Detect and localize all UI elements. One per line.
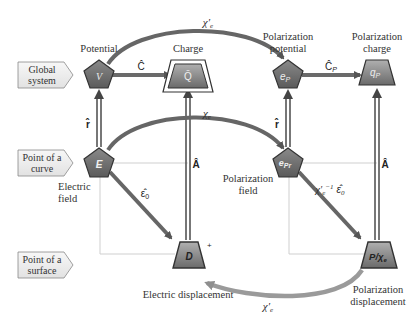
label-r-hat-right: r̂	[274, 118, 279, 130]
node-charge: Charge Q̄	[163, 43, 213, 92]
row-label-point-of-curve: Point of a curve	[18, 150, 73, 176]
svg-text:Point of a: Point of a	[23, 152, 62, 163]
chi-e-middle-arc	[108, 117, 283, 150]
svg-text:Charge: Charge	[173, 43, 203, 54]
svg-text:Q̄: Q̄	[184, 70, 192, 82]
svg-text:Point of a: Point of a	[23, 254, 62, 265]
svg-text:+: +	[207, 241, 212, 250]
svg-text:Polarization: Polarization	[353, 284, 404, 295]
svg-text:surface: surface	[28, 265, 57, 276]
label-r-hat-left: r̂	[85, 118, 90, 130]
label-CP-hat: ĈP	[325, 60, 337, 73]
chi-inv-eps0-arrow	[299, 172, 360, 238]
label-chi-e-prime-top: χ′e	[202, 16, 213, 30]
label-eps0: ε̂0	[141, 188, 149, 200]
svg-text:field: field	[58, 193, 78, 204]
r-hat-arrow-right	[283, 89, 293, 147]
label-chi-inv-eps0: χ′e−1ε̂0	[315, 183, 345, 197]
label-C-hat: Ĉ	[137, 60, 144, 72]
svg-text:Electric: Electric	[58, 181, 91, 192]
r-hat-arrow-left	[94, 89, 104, 147]
svg-text:Polarization: Polarization	[223, 173, 274, 184]
node-polarization-potential: Polarization potential eP	[263, 31, 314, 88]
eps0-arrow	[110, 172, 171, 238]
svg-text:Electric displacement: Electric displacement	[143, 289, 234, 300]
svg-text:displacement: displacement	[350, 296, 405, 307]
diagram-canvas: Global system Point of a curve Point of …	[0, 0, 419, 324]
label-A-hat-right: Â	[381, 158, 388, 170]
label-chi-e-prime-bottom: χ′e	[262, 300, 273, 314]
svg-text:Potential: Potential	[80, 43, 117, 54]
node-electric-displacement: D + Electric displacement	[143, 241, 234, 300]
row-label-global-system: Global system	[18, 62, 73, 88]
label-chi-e-middle: χe	[202, 107, 211, 121]
node-polarization-field: ePr Polarization field	[223, 148, 303, 196]
svg-text:Polarization: Polarization	[352, 31, 403, 42]
svg-text:potential: potential	[270, 43, 307, 54]
svg-text:Global: Global	[28, 64, 55, 75]
svg-text:Polarization: Polarization	[263, 31, 314, 42]
svg-text:system: system	[28, 75, 56, 86]
svg-text:D: D	[185, 251, 192, 262]
label-A-hat-left: Â	[192, 158, 199, 170]
node-potential: Potential V	[80, 43, 117, 88]
svg-text:field: field	[238, 185, 258, 196]
svg-text:curve: curve	[31, 163, 54, 174]
row-label-point-of-surface: Point of a surface	[18, 252, 73, 278]
svg-text:charge: charge	[363, 43, 391, 54]
svg-text:E: E	[96, 159, 103, 170]
